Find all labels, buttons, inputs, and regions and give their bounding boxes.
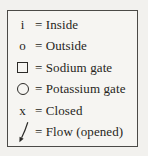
inside-symbol: i <box>13 17 32 33</box>
legend-row-label: = Flow (opened) <box>35 124 123 140</box>
legend-box: i = Inside o = Outside = Sodium gate = P… <box>7 10 138 147</box>
legend-row-flow: = Flow (opened) <box>13 122 137 144</box>
legend-row-label: = Sodium gate <box>35 60 112 76</box>
legend-row-potassium-gate: = Potassium gate <box>13 79 137 101</box>
legend-row-sodium-gate: = Sodium gate <box>13 57 137 79</box>
legend-row-label: = Closed <box>35 103 83 119</box>
legend-row-label: = Outside <box>35 38 87 54</box>
legend-row-label: = Inside <box>35 17 78 33</box>
outside-symbol: o <box>13 38 32 54</box>
scanned-figure-legend: i = Inside o = Outside = Sodium gate = P… <box>0 0 148 156</box>
sodium-gate-square-icon <box>13 62 32 73</box>
legend-row-outside: o = Outside <box>13 36 137 58</box>
closed-symbol: x <box>13 103 32 119</box>
flow-arrow-icon <box>13 119 32 145</box>
legend-row-inside: i = Inside <box>13 14 137 36</box>
potassium-gate-circle-icon <box>13 83 32 95</box>
legend-row-label: = Potassium gate <box>35 81 126 97</box>
